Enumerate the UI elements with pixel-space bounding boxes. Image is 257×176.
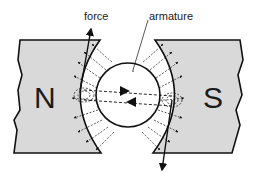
armature-circle (96, 63, 160, 127)
north-pole-label: N (34, 83, 56, 113)
north-pole-block (14, 40, 101, 153)
south-pole-label: S (203, 83, 223, 113)
diagram: force armature N S (0, 0, 257, 176)
armature-leader-line (133, 20, 148, 70)
armature-label: armature (149, 11, 193, 22)
force-label: force (84, 11, 108, 22)
